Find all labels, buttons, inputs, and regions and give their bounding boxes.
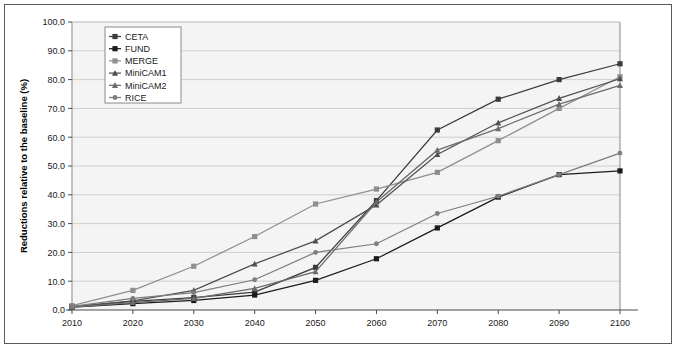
y-tick-label: 10.0 — [47, 277, 65, 287]
y-tick-label: 40.0 — [47, 190, 65, 200]
data-point-marker — [252, 292, 257, 297]
data-point-marker — [70, 304, 75, 309]
data-point-marker — [617, 61, 622, 66]
data-point-marker — [435, 211, 440, 216]
y-tick-label: 60.0 — [47, 133, 65, 143]
data-point-marker — [130, 288, 135, 293]
data-point-marker — [435, 225, 440, 230]
data-point-marker — [496, 138, 501, 143]
legend-label: MERGE — [125, 56, 158, 66]
data-point-marker — [130, 296, 135, 301]
chart-legend[interactable]: CETAFUNDMERGEMiniCAM1MiniCAM2RICE — [105, 27, 181, 103]
y-tick-label: 0.0 — [52, 305, 65, 315]
data-point-marker — [496, 97, 501, 102]
data-point-marker — [252, 277, 257, 282]
data-point-marker — [112, 58, 117, 63]
y-tick-label: 30.0 — [47, 219, 65, 229]
y-tick-label: 50.0 — [47, 161, 65, 171]
data-point-marker — [112, 46, 117, 51]
y-tick-label: 100.0 — [42, 17, 65, 27]
y-axis-title: Reductions relative to the baseline (%) — [18, 79, 29, 253]
data-point-marker — [112, 34, 117, 39]
x-tick-label: 2060 — [366, 318, 386, 328]
line-chart: 0.010.020.030.040.050.060.070.080.090.01… — [5, 5, 671, 343]
data-point-marker — [191, 264, 196, 269]
x-tick-label: 2030 — [184, 318, 204, 328]
x-tick-label: 2100 — [610, 318, 630, 328]
y-tick-label: 90.0 — [47, 46, 65, 56]
data-point-marker — [557, 172, 562, 177]
y-tick-label: 70.0 — [47, 104, 65, 114]
data-point-marker — [313, 201, 318, 206]
y-tick-label: 20.0 — [47, 248, 65, 258]
data-point-marker — [617, 168, 622, 173]
data-point-marker — [496, 194, 501, 199]
y-tick-label: 80.0 — [47, 75, 65, 85]
legend-label: FUND — [125, 44, 150, 54]
figure-container: 0.010.020.030.040.050.060.070.080.090.01… — [0, 0, 678, 349]
x-tick-label: 2020 — [123, 318, 143, 328]
x-tick-label: 2010 — [62, 318, 82, 328]
x-tick-label: 2070 — [427, 318, 447, 328]
legend-label: RICE — [125, 93, 147, 103]
x-tick-label: 2090 — [549, 318, 569, 328]
data-point-marker — [313, 250, 318, 255]
data-point-marker — [435, 127, 440, 132]
x-tick-label: 2040 — [245, 318, 265, 328]
data-point-marker — [618, 151, 623, 156]
y-axis-ticks: 0.010.020.030.040.050.060.070.080.090.01… — [42, 17, 72, 315]
x-axis-ticks: 2010202020302040205020602070208020902100 — [62, 310, 630, 328]
data-point-marker — [374, 256, 379, 261]
x-tick-label: 2080 — [488, 318, 508, 328]
legend-label: MiniCAM2 — [125, 81, 167, 91]
data-point-marker — [113, 95, 118, 100]
x-tick-label: 2050 — [306, 318, 326, 328]
data-point-marker — [191, 290, 196, 295]
data-point-marker — [374, 186, 379, 191]
data-point-marker — [435, 170, 440, 175]
data-point-marker — [252, 234, 257, 239]
data-point-marker — [557, 77, 562, 82]
legend-label: MiniCAM1 — [125, 68, 167, 78]
chart-frame: 0.010.020.030.040.050.060.070.080.090.01… — [4, 4, 672, 344]
legend-label: CETA — [125, 32, 148, 42]
data-point-marker — [374, 241, 379, 246]
data-point-marker — [313, 278, 318, 283]
